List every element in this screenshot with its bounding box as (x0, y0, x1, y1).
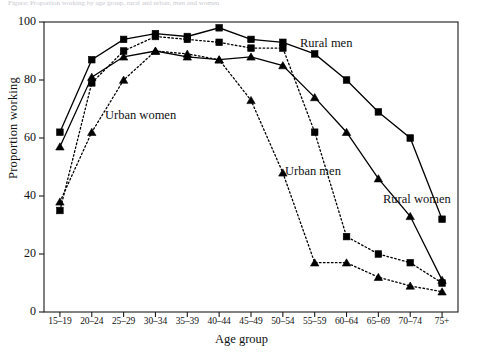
series-urban-women (56, 47, 447, 295)
x-tick-label: 75+ (420, 316, 464, 326)
y-tick-label: 60 (10, 130, 36, 145)
marker-triangle (56, 143, 64, 150)
marker-square (343, 77, 350, 84)
x-axis-label: Age group (0, 332, 483, 347)
marker-triangle (374, 273, 382, 280)
marker-square (152, 33, 159, 40)
marker-triangle (88, 128, 96, 135)
rural-women-label: Rural women (383, 192, 451, 207)
marker-square (311, 129, 318, 136)
marker-square (248, 36, 255, 43)
marker-square (184, 36, 191, 43)
series-line (60, 37, 442, 284)
marker-square (280, 45, 287, 52)
marker-square (439, 216, 446, 223)
y-tick-label: 20 (10, 246, 36, 261)
figure-container: Figure: Proportion working by age group,… (0, 0, 483, 352)
y-tick-label: 40 (10, 188, 36, 203)
rural-men-label: Rural men (300, 36, 352, 51)
marker-square (375, 251, 382, 258)
marker-triangle (151, 47, 159, 54)
marker-square (311, 51, 318, 58)
marker-square (216, 25, 223, 32)
marker-square (248, 45, 255, 52)
marker-square (343, 233, 350, 240)
marker-square (375, 109, 382, 116)
y-tick-label: 0 (10, 304, 36, 319)
series-urban-men (57, 33, 446, 286)
marker-triangle (374, 175, 382, 182)
marker-square (57, 129, 64, 136)
marker-square (88, 56, 95, 63)
series-line (60, 51, 442, 280)
marker-triangle (88, 73, 96, 80)
urban-men-label: Urban men (285, 164, 341, 179)
y-tick-label: 80 (10, 72, 36, 87)
marker-square (407, 135, 414, 142)
marker-triangle (310, 259, 318, 266)
series-rural-women (56, 47, 447, 283)
plot-frame (44, 22, 458, 312)
y-tick-label: 100 (10, 14, 36, 29)
marker-square (57, 207, 64, 214)
marker-square (216, 39, 223, 46)
marker-square (407, 259, 414, 266)
urban-women-label: Urban women (105, 108, 176, 123)
chart-canvas (0, 0, 483, 352)
marker-square (120, 36, 127, 43)
